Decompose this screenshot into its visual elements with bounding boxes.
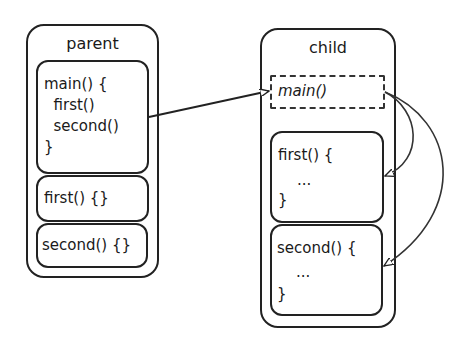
arrows-layer xyxy=(0,0,473,343)
arrow-child-main-to-second xyxy=(384,92,443,266)
arrow-parent-main-to-child-main xyxy=(149,91,269,117)
